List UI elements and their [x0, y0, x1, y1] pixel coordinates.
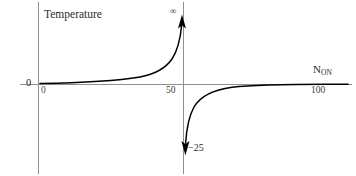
x-axis-tick-fifty: 50	[166, 86, 176, 96]
x-axis-title-main: N	[313, 63, 321, 75]
temperature-vs-non-figure: Temperature 0 0 50 100 NON ∞ −25	[0, 0, 356, 176]
x-axis-tick-zero: 0	[41, 86, 46, 96]
y-axis-title: Temperature	[44, 9, 102, 21]
y-axis-tick-zero: 0	[26, 78, 31, 89]
x-axis-title: NON	[313, 64, 332, 75]
negative-25-label: −25	[188, 143, 204, 153]
positive-temperature-curve	[40, 26, 182, 84]
x-axis-title-subscript: ON	[321, 68, 332, 77]
infinity-label: ∞	[170, 7, 176, 16]
plot-canvas	[0, 0, 356, 176]
x-axis-tick-hundred: 100	[311, 86, 325, 96]
